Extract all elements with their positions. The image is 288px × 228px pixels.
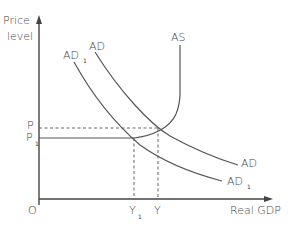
ad1-bottom-subscript: 1 <box>247 183 251 190</box>
output-y-label: Y <box>154 204 161 217</box>
origin-label: O <box>28 204 37 217</box>
ad-bottom-label: AD <box>241 157 257 170</box>
ad1-bottom-label: AD <box>227 175 243 188</box>
y-axis-label-line2: level <box>7 30 33 43</box>
ad-curve <box>95 52 238 165</box>
ad1-top-subscript: 1 <box>83 57 87 64</box>
ad-as-diagram: Price level Real GDP O AS AD AD 1 AD AD … <box>0 0 288 228</box>
output-y1-label: Y <box>129 204 136 217</box>
as-curve <box>134 45 180 138</box>
output-y1-subscript: 1 <box>138 213 142 220</box>
as-label: AS <box>171 31 186 44</box>
price-p1-subscript: 1 <box>35 140 39 147</box>
ad-top-label: AD <box>89 40 105 53</box>
price-p1-label: P <box>26 131 33 144</box>
x-axis-label: Real GDP <box>230 204 281 217</box>
ad1-curve <box>74 62 222 181</box>
x-axis-arrow-icon <box>264 196 273 202</box>
ad1-top-label: AD <box>63 49 79 62</box>
y-axis-arrow-icon <box>36 15 42 24</box>
y-axis-label-line1: Price <box>3 14 30 27</box>
